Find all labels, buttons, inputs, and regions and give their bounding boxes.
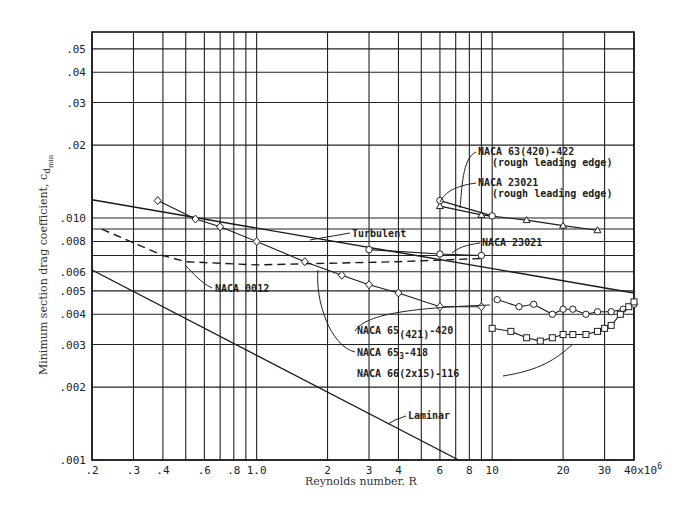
annotation-naca-65-421-420: NACA 65(421)-420 bbox=[357, 325, 453, 340]
x-tick-label: .2 bbox=[85, 464, 98, 477]
series-line bbox=[92, 200, 634, 293]
square-marker bbox=[560, 332, 566, 338]
y-axis-label-group: Minimum section drag coefficient, cdmin bbox=[37, 154, 55, 375]
annotation-turbulent: Turbulent bbox=[352, 228, 406, 239]
series-line bbox=[369, 250, 481, 256]
annotation-laminar: Laminar bbox=[408, 410, 450, 421]
diamond-marker bbox=[478, 303, 485, 311]
x-tick-label: 30 bbox=[598, 464, 611, 477]
diamond-marker bbox=[154, 197, 161, 205]
circle-marker bbox=[560, 306, 566, 312]
square-marker bbox=[570, 332, 576, 338]
y-tick-label: .010 bbox=[60, 212, 87, 225]
y-tick-label: .008 bbox=[60, 235, 87, 248]
y-tick-label: .004 bbox=[60, 308, 87, 321]
drag-coefficient-chart: .001.002.003.004.005.006.008.010.02.03.0… bbox=[0, 0, 685, 517]
circle-marker bbox=[494, 296, 500, 302]
diamond-marker bbox=[366, 281, 373, 289]
circle-marker bbox=[516, 304, 522, 310]
x-tick-label: 20 bbox=[556, 464, 569, 477]
annotation-naca-66-2x15-116: NACA 66(2x15)-116 bbox=[357, 368, 459, 379]
circle-marker bbox=[549, 311, 555, 317]
square-marker bbox=[608, 322, 614, 328]
series-line bbox=[92, 270, 459, 460]
x-tick-label: 6 bbox=[437, 464, 444, 477]
y-tick-label: .005 bbox=[60, 285, 87, 298]
y-tick-label: .006 bbox=[60, 266, 87, 279]
square-marker bbox=[549, 335, 555, 341]
square-marker bbox=[583, 332, 589, 338]
annotation-naca-0012: NACA 0012 bbox=[215, 283, 269, 294]
diamond-marker bbox=[301, 258, 308, 266]
annotations: NACA 63(420)-422 (rough leading edge) NA… bbox=[215, 146, 612, 421]
diamond-marker bbox=[253, 237, 260, 245]
diamond-marker bbox=[436, 303, 443, 311]
y-tick-label: .02 bbox=[66, 139, 86, 152]
x-tick-label: .8 bbox=[227, 464, 240, 477]
circle-marker bbox=[583, 311, 589, 317]
square-marker bbox=[524, 335, 530, 341]
x-tick-label: .3 bbox=[127, 464, 140, 477]
square-marker bbox=[489, 325, 495, 331]
square-marker bbox=[508, 328, 514, 334]
circle-marker bbox=[437, 251, 443, 257]
circle-marker bbox=[478, 252, 484, 258]
square-marker bbox=[595, 328, 601, 334]
series-turbulent bbox=[92, 200, 634, 293]
diamond-marker bbox=[192, 215, 199, 223]
y-tick-label: .002 bbox=[60, 381, 87, 394]
circle-marker bbox=[608, 309, 614, 315]
x-tick-label: .4 bbox=[156, 464, 170, 477]
annotation-naca-23021-rough: NACA 23021 bbox=[478, 177, 538, 188]
annotation-naca-63-rough: (rough leading edge) bbox=[492, 157, 612, 168]
annotation-naca-23021-rough-sub: (rough leading edge) bbox=[492, 188, 612, 199]
annotation-naca-653-418: NACA 653-418 bbox=[357, 347, 428, 361]
y-tick-label: .003 bbox=[60, 339, 87, 352]
series-laminar bbox=[92, 270, 459, 460]
circle-marker bbox=[366, 246, 372, 252]
circle-marker bbox=[489, 213, 495, 219]
annotation-naca-23021: NACA 23021 bbox=[482, 237, 542, 248]
square-marker bbox=[631, 299, 637, 305]
x-tick-label: .6 bbox=[198, 464, 211, 477]
x-axis-label: Reynolds number. R bbox=[305, 475, 418, 488]
y-tick-label: .05 bbox=[66, 43, 86, 56]
annotation-naca-63-420-422: NACA 63(420)-422 bbox=[478, 146, 574, 157]
diamond-marker bbox=[338, 271, 345, 279]
circle-marker bbox=[570, 306, 576, 312]
x-tick-label: 1.0 bbox=[247, 464, 267, 477]
circle-marker bbox=[530, 301, 536, 307]
y-tick-labels: .001.002.003.004.005.006.008.010.02.03.0… bbox=[60, 43, 87, 467]
y-tick-label: .04 bbox=[66, 66, 86, 79]
y-axis-label: Minimum section drag coefficient, cdmin bbox=[37, 154, 55, 375]
square-marker bbox=[537, 338, 543, 344]
square-marker bbox=[617, 311, 623, 317]
square-marker bbox=[602, 325, 608, 331]
circle-marker bbox=[594, 309, 600, 315]
x-tick-label: 10 bbox=[486, 464, 499, 477]
diamond-marker bbox=[395, 289, 402, 297]
x-tick-label: 8 bbox=[466, 464, 473, 477]
y-tick-label: .03 bbox=[66, 97, 86, 110]
x-tick-label: 40x106 bbox=[624, 462, 662, 477]
y-tick-label: .001 bbox=[60, 454, 87, 467]
